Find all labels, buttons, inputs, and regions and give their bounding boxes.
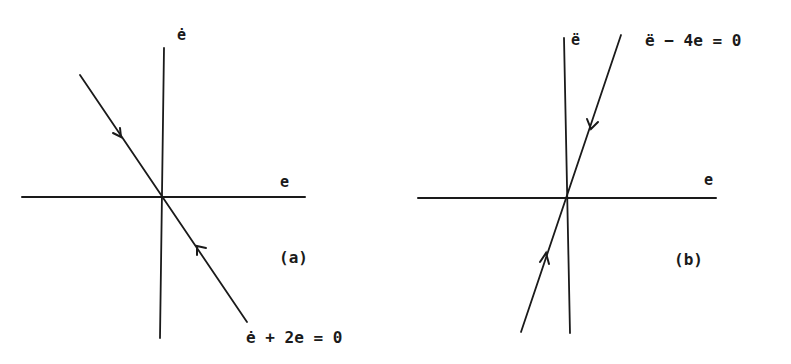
panel-b-caption: (b) <box>674 252 703 268</box>
panel-b-y-axis <box>564 38 570 333</box>
panel-a-caption: (a) <box>279 250 308 266</box>
panel-a-equation: ė + 2e = 0 <box>246 330 342 346</box>
panel-a <box>22 48 305 338</box>
panel-b-trajectory-line <box>521 35 621 332</box>
panel-a-y-axis-label: ė <box>177 28 186 43</box>
panel-b-y-axis-label: ë <box>571 33 580 48</box>
panel-b-equation: ë − 4e = 0 <box>645 33 741 49</box>
phase-plane-figure <box>0 0 791 364</box>
panel-b <box>418 35 716 333</box>
panel-b-x-axis-label: e <box>704 173 713 188</box>
panel-a-x-axis-label: e <box>280 175 289 190</box>
